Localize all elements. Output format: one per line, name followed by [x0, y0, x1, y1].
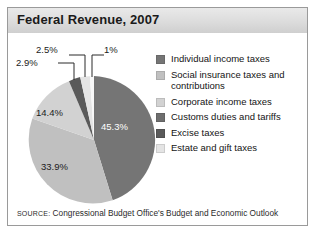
chart-legend: Individual income taxes Social insurance…: [156, 53, 306, 158]
legend-swatch-icon: [156, 144, 165, 153]
chart-source-note: SOURCE: Congressional Budget Office's Bu…: [17, 208, 278, 218]
legend-item-label: Social insurance taxes and contributions: [171, 69, 306, 92]
chart-figure: Federal Revenue, 2007 45.3% 33.9% 14.4% …: [7, 7, 308, 226]
legend-item-individual-income-taxes: Individual income taxes: [156, 53, 306, 65]
legend-swatch-icon: [156, 71, 165, 80]
legend-item-social-insurance: Social insurance taxes and contributions: [156, 69, 306, 92]
pie-value-label-excise-taxes: 2.9%: [16, 57, 38, 68]
pie-value-label-estate-and-gift-taxes: 2.5%: [36, 44, 58, 55]
pie-value-label-individual-income-taxes: 45.3%: [101, 121, 128, 132]
chart-title-bar: Federal Revenue, 2007: [8, 8, 307, 33]
leader-line-estate: [69, 55, 85, 77]
legend-swatch-icon: [156, 98, 165, 107]
legend-item-estate-and-gift-taxes: Estate and gift taxes: [156, 142, 306, 154]
source-text: Congressional Budget Office's Budget and…: [53, 208, 279, 218]
legend-item-corporate-income-taxes: Corporate income taxes: [156, 96, 306, 108]
pie-value-label-social-insurance: 33.9%: [41, 161, 68, 172]
leader-line-excise: [58, 63, 74, 80]
pie-value-label-corporate-income-taxes: 14.4%: [36, 107, 63, 118]
legend-item-label: Estate and gift taxes: [171, 142, 257, 154]
legend-item-label: Customs duties and tariffs: [171, 111, 281, 123]
legend-item-label: Individual income taxes: [171, 53, 270, 65]
legend-item-customs-duties: Customs duties and tariffs: [156, 111, 306, 123]
legend-swatch-icon: [156, 113, 165, 122]
legend-item-excise-taxes: Excise taxes: [156, 127, 306, 139]
legend-item-label: Excise taxes: [171, 127, 224, 139]
pie-value-label-customs-duties: 1%: [104, 44, 118, 55]
source-prefix: SOURCE:: [17, 210, 50, 217]
chart-plot-area: 45.3% 33.9% 14.4% 2.9% 2.5% 1% Individua…: [8, 33, 307, 227]
legend-swatch-icon: [156, 129, 165, 138]
page-title: Federal Revenue, 2007: [17, 12, 159, 27]
legend-swatch-icon: [156, 55, 165, 64]
legend-item-label: Corporate income taxes: [171, 96, 272, 108]
leader-line-customs: [92, 55, 104, 77]
